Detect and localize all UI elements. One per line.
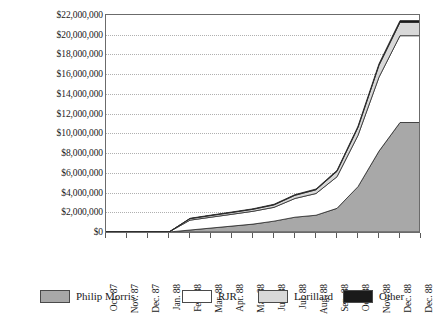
x-axis-tick [168, 233, 169, 238]
legend-item[interactable]: Other [343, 288, 404, 304]
plot-area [105, 14, 420, 233]
legend-label: Philip Morris [76, 290, 135, 303]
x-axis-labels: Oct. 87Nov. 87Dec. 87Jan. 88Feb. 88Mar. … [0, 240, 438, 292]
legend-swatch [182, 290, 212, 303]
legend-item[interactable]: Lorillard [258, 288, 333, 304]
y-axis-label: $2,000,000 [5, 207, 103, 217]
legend-swatch [40, 290, 70, 303]
legend-label: RJR [218, 290, 237, 303]
y-axis-label: $22,000,000 [5, 10, 103, 20]
x-axis-tick [294, 233, 295, 238]
x-axis-tick [399, 233, 400, 238]
x-axis-tick [336, 233, 337, 238]
x-axis-tick [378, 233, 379, 238]
legend-item[interactable]: Philip Morris [40, 288, 135, 304]
legend-swatch [343, 290, 373, 303]
y-axis: $22,000,000$20,000,000$18,000,000$16,000… [0, 0, 103, 247]
x-axis-tick [315, 233, 316, 238]
y-axis-label: $4,000,000 [5, 188, 103, 198]
x-axis-tick [105, 233, 106, 238]
y-axis-label: $12,000,000 [5, 109, 103, 119]
x-axis-tick [147, 233, 148, 238]
series-areas [106, 15, 419, 232]
chart-legend: Philip MorrisRJRLorillardOther [0, 288, 438, 308]
x-axis-tick [357, 233, 358, 238]
y-axis-label: $14,000,000 [5, 89, 103, 99]
legend-swatch [258, 290, 288, 303]
legend-label: Lorillard [294, 290, 333, 303]
y-axis-label: $20,000,000 [5, 30, 103, 40]
x-axis-tick [420, 233, 421, 238]
x-axis-tick [231, 233, 232, 238]
x-axis-tick [189, 233, 190, 238]
x-axis-tick [273, 233, 274, 238]
x-axis-tick [252, 233, 253, 238]
y-axis-label: $18,000,000 [5, 49, 103, 59]
y-axis-label: $6,000,000 [5, 168, 103, 178]
x-axis-tick [126, 233, 127, 238]
y-axis-label: $16,000,000 [5, 69, 103, 79]
y-axis-label: $0 [5, 227, 103, 237]
legend-item[interactable]: RJR [182, 288, 237, 304]
x-axis-tick [210, 233, 211, 238]
legend-label: Other [379, 290, 404, 303]
y-axis-label: $10,000,000 [5, 128, 103, 138]
y-axis-label: $8,000,000 [5, 148, 103, 158]
